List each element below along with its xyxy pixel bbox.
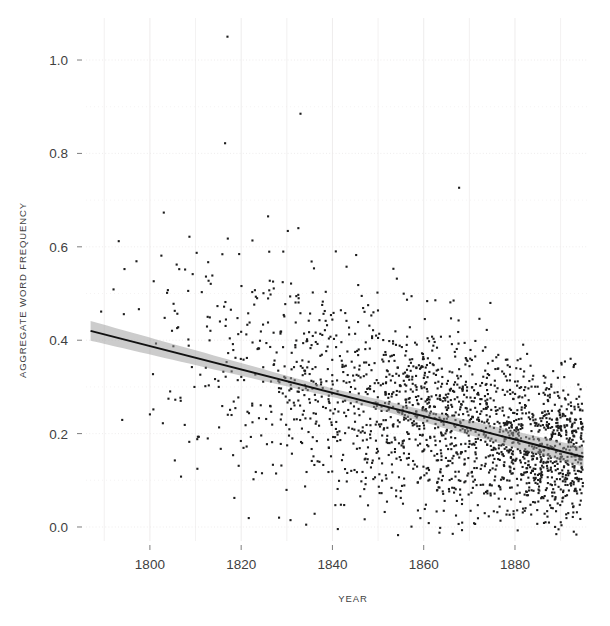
y-tick-label: 0.2 xyxy=(49,427,68,442)
y-tick-label: 1.0 xyxy=(49,53,68,68)
scatter-plot: 180018201840186018800.00.20.40.60.81.0 Y… xyxy=(0,0,610,626)
y-axis-title: AGGREGATE WORD FREQUENCY xyxy=(17,202,28,378)
x-tick-label: 1860 xyxy=(409,557,439,572)
chart-figure: 180018201840186018800.00.20.40.60.81.0 Y… xyxy=(0,0,610,626)
y-tick-label: 0.6 xyxy=(49,240,68,255)
x-tick-label: 1880 xyxy=(500,557,530,572)
y-tick-label: 0.8 xyxy=(49,146,68,161)
x-tick-label: 1840 xyxy=(317,557,347,572)
y-tick-label: 0.4 xyxy=(49,333,68,348)
x-tick-label: 1800 xyxy=(135,557,165,572)
plot-background xyxy=(0,0,610,626)
y-tick-label: 0.0 xyxy=(49,520,68,535)
x-tick-label: 1820 xyxy=(226,557,256,572)
x-axis-title: YEAR xyxy=(338,593,367,604)
